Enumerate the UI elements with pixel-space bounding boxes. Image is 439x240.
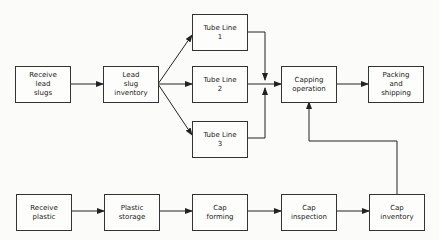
node-cap-forming: Cap forming — [192, 194, 248, 231]
node-lead-slug-inventory: Lead slug inventory — [103, 66, 159, 103]
node-tube-line-1: Tube Line 1 — [192, 14, 248, 51]
node-cap-inspection: Cap inspection — [281, 194, 337, 231]
node-capping-operation: Capping operation — [281, 66, 337, 103]
node-cap-inventory: Cap inventory — [369, 194, 425, 231]
node-receive-plastic: Receive plastic — [16, 194, 72, 231]
process-flow-diagram: Receive lead slugs Lead slug inventory T… — [0, 0, 439, 240]
node-receive-lead-slugs: Receive lead slugs — [15, 66, 71, 103]
node-plastic-storage: Plastic storage — [104, 194, 160, 231]
node-tube-line-2: Tube Line 2 — [192, 66, 248, 103]
node-packing-and-shipping: Packing and shipping — [368, 66, 424, 103]
node-tube-line-3: Tube Line 3 — [192, 121, 248, 158]
